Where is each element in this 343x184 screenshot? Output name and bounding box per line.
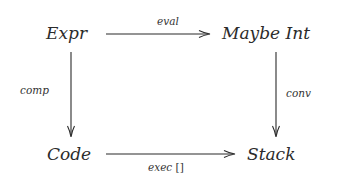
label-exec: exec [148, 161, 172, 173]
label-eval: eval [157, 16, 179, 27]
label-comp: comp [20, 85, 49, 96]
node-stack: Stack [247, 146, 295, 163]
arrow-exec [106, 151, 235, 158]
arrow-eval [106, 31, 210, 38]
node-code: Code [47, 146, 91, 163]
node-expr: Expr [46, 25, 87, 42]
label-conv: conv [286, 88, 311, 99]
label-exec-empty-list: exec [] [148, 162, 184, 173]
arrow-conv [273, 52, 280, 137]
arrow-comp [68, 52, 75, 137]
commutative-diagram: Expr Maybe Int Code Stack eval comp conv… [0, 0, 343, 184]
node-maybe-int: Maybe Int [222, 25, 310, 42]
label-empty-list: [] [172, 161, 184, 173]
